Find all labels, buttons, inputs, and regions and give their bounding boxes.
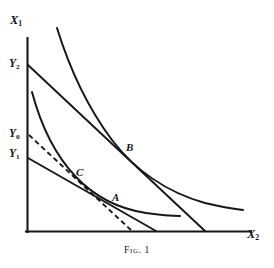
axis-label-x2: X2	[247, 228, 259, 241]
intercept-label-y1: Y1	[9, 148, 20, 161]
axis-label-x1: X1	[10, 14, 22, 27]
intercept-label-y2: Y2	[9, 58, 20, 71]
point-label-a: A	[112, 192, 119, 203]
figure-caption: Fig. 1	[0, 245, 274, 255]
point-label-c: C	[76, 167, 83, 178]
figure-container: X1 X2 Y2 Y0 Y1 B C A Fig. 1	[0, 0, 274, 268]
indifference-curve-lower	[32, 92, 180, 216]
intercept-label-y0: Y0	[9, 128, 20, 141]
figure-canvas	[0, 0, 274, 268]
point-label-b: B	[126, 142, 133, 153]
budget-line-y0-dashed	[29, 135, 132, 231]
